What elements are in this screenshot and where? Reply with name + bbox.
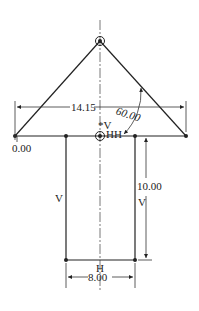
vertex-points[interactable] [13, 134, 188, 262]
constraint-horizontal-center: HH [106, 128, 122, 140]
rectangle-shaft[interactable] [66, 136, 135, 260]
origin-label: 0.00 [12, 142, 32, 154]
dimension-width-top-label: 14.15 [71, 101, 96, 113]
dimension-width-bottom-label: 8.00 [88, 271, 108, 283]
constraint-right-vertical: V [138, 196, 146, 208]
sketch-canvas[interactable]: 14.15 60.00 0.00 *V HH V V H 10.00 8.00 [0, 0, 199, 311]
constraint-left-vertical: V [55, 192, 63, 204]
dimension-angle-label: 60.00 [115, 105, 143, 124]
dimension-height-label: 10.00 [137, 180, 162, 192]
